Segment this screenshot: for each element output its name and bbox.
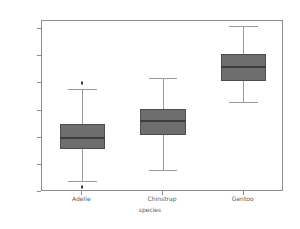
x-tick-label-adelie: Adelie: [72, 195, 91, 202]
whisker-cap: [229, 102, 258, 103]
plot-axes: [41, 20, 283, 191]
median-line: [221, 66, 266, 68]
whisker-cap: [149, 170, 178, 171]
whisker-cap: [68, 181, 97, 182]
boxplot-figure: flipper_length_mm 170180190200210220230 …: [0, 0, 300, 229]
y-tick-mark: [37, 191, 41, 192]
median-line: [140, 120, 185, 122]
outlier-marker: [81, 185, 83, 188]
x-tick-mark: [243, 191, 244, 195]
whisker-cap: [229, 26, 258, 27]
x-tick-mark: [81, 191, 82, 195]
x-tick-label-chinstrap: Chinstrap: [148, 195, 177, 202]
whisker-cap: [68, 89, 97, 90]
whisker-cap: [149, 78, 178, 79]
x-tick-mark: [162, 191, 163, 195]
x-axis-label: species: [0, 206, 300, 213]
median-line: [60, 137, 105, 139]
y-axis-label-container: flipper_length_mm: [24, 20, 34, 191]
outlier-marker: [81, 82, 83, 85]
x-tick-label-gentoo: Gentoo: [232, 195, 254, 202]
plot-area: [42, 21, 282, 190]
